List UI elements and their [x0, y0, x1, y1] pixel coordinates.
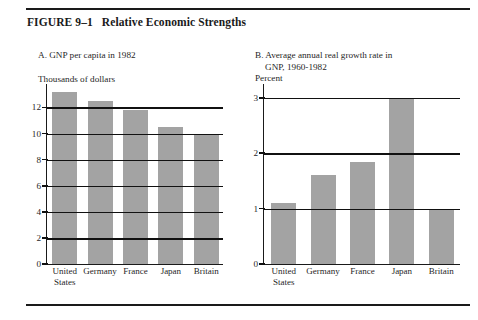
y-tick-label-4: 4: [21, 207, 41, 217]
y-tick-label-1: 1: [244, 204, 258, 214]
x-label-line: States: [258, 277, 309, 288]
gridline-2: [47, 238, 223, 240]
y-tick-label-10: 10: [21, 129, 41, 139]
bar-germany: [88, 101, 113, 264]
bar-united-states: [271, 203, 296, 264]
panel-b-title-line1: B. Average annual real growth rate in: [255, 50, 392, 60]
y-tick-label-2: 2: [21, 233, 41, 243]
chart-b-bars: [264, 84, 460, 264]
panel-b-units: Percent: [255, 73, 283, 83]
y-tick-mark-2: [42, 237, 48, 239]
x-label-line: France: [123, 266, 148, 276]
y-tick-mark-0: [42, 263, 48, 265]
y-tick-mark-2: [259, 152, 265, 154]
y-tick-mark-4: [42, 211, 48, 213]
y-tick-mark-6: [42, 185, 48, 187]
x-label-line: Japan: [161, 266, 182, 276]
bar-germany: [311, 175, 336, 264]
y-tick-label-0: 0: [21, 259, 41, 269]
panel-b-title: B. Average annual real growth rate in GN…: [255, 50, 392, 73]
bar-france: [350, 162, 375, 264]
bottom-rule: [26, 304, 470, 306]
chart-b-x-labels: UnitedStatesGermanyFranceJapanBritain: [264, 266, 460, 296]
bar-britain: [429, 210, 454, 264]
gridline-1: [264, 209, 460, 211]
y-tick-mark-8: [42, 159, 48, 161]
x-label-line: Germany: [306, 266, 340, 276]
y-tick-label-0: 0: [244, 259, 258, 269]
bar-japan: [389, 98, 414, 264]
gridline-4: [47, 212, 223, 214]
gridline-2: [264, 153, 460, 155]
x-label-line: Britain: [194, 266, 219, 276]
chart-a-x-labels: UnitedStatesGermanyFranceJapanBritain: [47, 266, 223, 296]
x-label-line: Britain: [429, 266, 454, 276]
panel-gnp-per-capita: A. GNP per capita in 1982 Thousands of d…: [0, 0, 240, 320]
gridline-10: [47, 134, 223, 136]
x-label-line: States: [41, 277, 88, 288]
x-label-britain: Britain: [183, 266, 230, 277]
y-tick-label-8: 8: [21, 155, 41, 165]
gridline-12: [47, 107, 223, 109]
y-tick-mark-3: [259, 97, 265, 99]
y-tick-mark-10: [42, 133, 48, 135]
y-tick-label-3: 3: [244, 93, 258, 103]
panel-growth-rate: B. Average annual real growth rate in GN…: [238, 0, 478, 320]
chart-b-plot-area: UnitedStatesGermanyFranceJapanBritain 32…: [263, 84, 460, 264]
y-tick-mark-12: [42, 107, 48, 109]
panel-a-title: A. GNP per capita in 1982: [38, 50, 136, 62]
panel-a-units: Thousands of dollars: [38, 74, 115, 84]
x-label-line: United: [52, 266, 77, 276]
bar-britain: [194, 134, 219, 264]
gridline-3: [264, 98, 460, 100]
y-tick-label-12: 12: [21, 102, 41, 112]
panel-b-title-line2: GNP, 1960-1982: [255, 62, 392, 74]
y-tick-mark-0: [259, 263, 265, 265]
chart-a-plot-area: UnitedStatesGermanyFranceJapanBritain 12…: [46, 84, 223, 264]
y-tick-label-2: 2: [244, 148, 258, 158]
x-label-britain: Britain: [416, 266, 467, 277]
y-tick-label-6: 6: [21, 181, 41, 191]
gridline-6: [47, 186, 223, 188]
x-label-line: France: [350, 266, 375, 276]
x-label-line: United: [271, 266, 296, 276]
y-tick-mark-1: [259, 208, 265, 210]
bar-japan: [158, 127, 183, 264]
gridline-8: [47, 160, 223, 162]
x-label-line: Japan: [392, 266, 413, 276]
figure-page: FIGURE 9–1Relative Economic Strengths A.…: [0, 0, 478, 320]
